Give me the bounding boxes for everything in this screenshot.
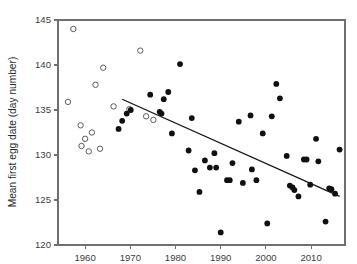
- data-point-filled: [254, 177, 260, 183]
- x-tick-label: 1960: [74, 252, 95, 263]
- data-point-filled: [177, 61, 183, 67]
- data-point-filled: [249, 167, 255, 173]
- y-axis-ticks: [54, 20, 58, 245]
- x-axis-tick-labels: 196019701980199020002010: [74, 252, 321, 263]
- data-point-filled: [230, 160, 236, 166]
- y-tick-label: 120: [35, 239, 51, 250]
- data-point-open: [79, 143, 84, 148]
- data-point-open: [101, 65, 106, 70]
- y-tick-label: 140: [35, 59, 51, 70]
- data-point-filled: [197, 189, 203, 195]
- y-tick-label: 130: [35, 149, 51, 160]
- data-point-filled: [260, 131, 266, 137]
- data-point-filled: [169, 131, 175, 137]
- data-point-filled: [128, 107, 134, 113]
- data-point-filled: [273, 81, 279, 87]
- figure-container: 120125130135140145 196019701980199020002…: [0, 0, 357, 264]
- y-tick-label: 125: [35, 194, 51, 205]
- data-point-filled: [192, 167, 198, 173]
- x-tick-label: 1980: [165, 252, 186, 263]
- data-point-open: [93, 82, 98, 87]
- y-axis-tick-labels: 120125130135140145: [35, 14, 51, 250]
- data-point-filled: [116, 126, 122, 132]
- x-tick-label: 1970: [120, 252, 141, 263]
- x-axis-ticks: [85, 245, 311, 249]
- data-point-open: [89, 130, 94, 135]
- data-point-filled: [313, 136, 319, 142]
- data-point-filled: [291, 187, 297, 193]
- y-axis-title: Mean first egg date (day number): [7, 57, 18, 208]
- data-point-filled: [165, 89, 171, 95]
- data-point-open: [143, 114, 148, 119]
- data-point-open: [78, 123, 83, 128]
- data-point-open: [71, 26, 76, 31]
- y-tick-label: 135: [35, 104, 51, 115]
- data-point-filled: [315, 158, 321, 164]
- data-point-filled: [186, 148, 192, 154]
- data-point-open: [111, 104, 116, 109]
- data-point-filled: [277, 95, 283, 101]
- data-point-open: [151, 117, 156, 122]
- data-point-open: [86, 149, 91, 154]
- data-point-filled: [207, 165, 213, 171]
- data-point-filled: [147, 92, 153, 98]
- data-point-filled: [269, 113, 275, 119]
- y-tick-label: 145: [35, 14, 51, 25]
- data-point-filled: [337, 147, 343, 153]
- data-series-filled-circles: [116, 61, 343, 235]
- data-point-filled: [213, 165, 219, 171]
- data-point-filled: [264, 221, 270, 227]
- x-tick-label: 2000: [255, 252, 276, 263]
- data-point-filled: [202, 158, 208, 164]
- data-point-filled: [189, 115, 195, 121]
- data-point-filled: [161, 96, 167, 102]
- data-series-open-circles: [65, 26, 156, 154]
- data-point-filled: [211, 150, 217, 156]
- data-point-filled: [227, 177, 233, 183]
- data-point-filled: [248, 113, 254, 119]
- data-point-open: [82, 136, 87, 141]
- x-tick-label: 1990: [210, 252, 231, 263]
- data-point-filled: [284, 153, 290, 159]
- data-point-filled: [323, 219, 329, 225]
- data-point-open: [97, 146, 102, 151]
- plot-frame: [58, 20, 345, 245]
- data-point-filled: [304, 157, 310, 163]
- scatter-plot: 120125130135140145 196019701980199020002…: [0, 0, 357, 264]
- data-point-open: [138, 48, 143, 53]
- data-point-open: [65, 99, 70, 104]
- data-point-filled: [119, 118, 125, 124]
- x-tick-label: 2010: [300, 252, 321, 263]
- data-point-filled: [296, 194, 302, 200]
- data-point-filled: [240, 180, 246, 186]
- data-point-filled: [236, 119, 242, 125]
- data-point-filled: [218, 230, 224, 236]
